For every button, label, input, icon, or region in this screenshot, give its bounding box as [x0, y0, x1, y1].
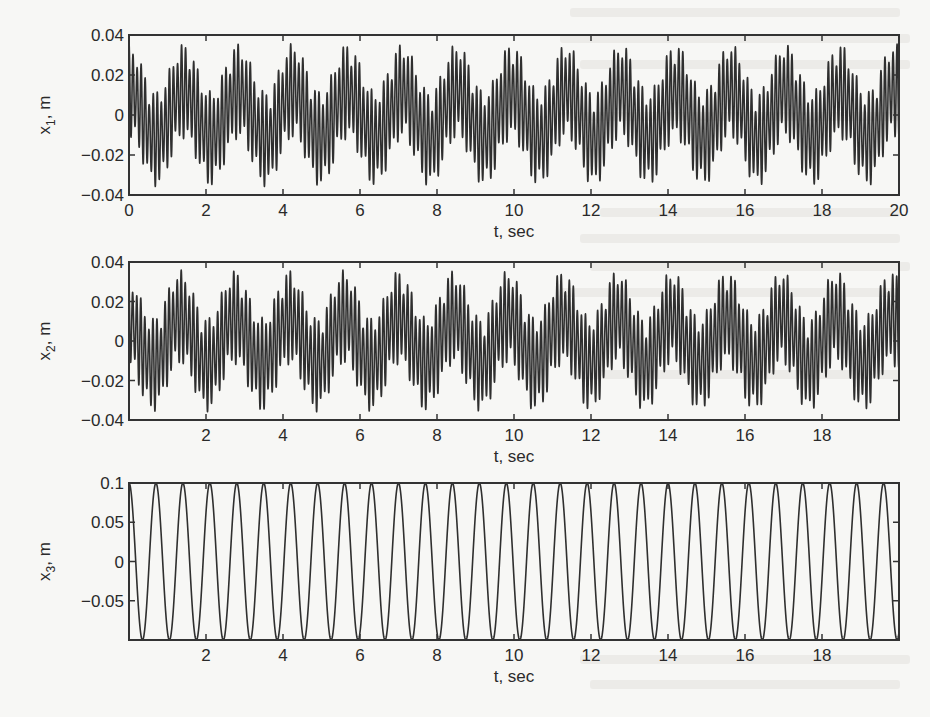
- figure-canvas: 024681012141618200.040.020−0.02−0.04 t, …: [0, 0, 930, 717]
- xtick-label: 16: [736, 646, 755, 665]
- xtick-label: 4: [278, 201, 287, 220]
- x3-axes-frame: [129, 483, 899, 640]
- xtick-label: 16: [736, 426, 755, 445]
- panel-x1: 024681012141618200.040.020−0.02−0.04 t, …: [35, 26, 908, 241]
- xtick-label: 4: [278, 426, 287, 445]
- x3-ylabel: x3, m: [35, 542, 58, 581]
- ytick-label: 0.05: [91, 513, 124, 532]
- xtick-label: 12: [582, 646, 601, 665]
- ytick-label: 0.02: [91, 293, 124, 312]
- xtick-label: 6: [355, 201, 364, 220]
- x2-trace: [129, 270, 899, 412]
- ytick-label: 0.04: [91, 253, 124, 272]
- xtick-label: 12: [582, 426, 601, 445]
- x3-ticks: 246810121416180.10.050−0.05: [81, 474, 899, 665]
- panel-x3: 246810121416180.10.050−0.05 t, sec x3, m: [35, 474, 899, 686]
- x3-trace: [129, 483, 899, 640]
- xtick-label: 10: [505, 201, 524, 220]
- ytick-label: 0.02: [91, 66, 124, 85]
- x2-ylabel: x2, m: [35, 322, 58, 361]
- xtick-label: 18: [813, 426, 832, 445]
- xtick-label: 6: [355, 426, 364, 445]
- xtick-label: 4: [278, 646, 287, 665]
- panel-x2: 246810121416180.040.020−0.02−0.04 t, sec…: [35, 253, 899, 466]
- ytick-label: −0.04: [81, 186, 124, 205]
- xtick-label: 0: [124, 201, 133, 220]
- x3-xlabel: t, sec: [494, 667, 535, 686]
- xtick-label: 14: [659, 201, 678, 220]
- xtick-label: 10: [505, 646, 524, 665]
- ytick-label: 0: [115, 332, 124, 351]
- x1-xlabel: t, sec: [494, 222, 535, 241]
- xtick-label: 8: [432, 646, 441, 665]
- xtick-label: 8: [432, 201, 441, 220]
- xtick-label: 6: [355, 646, 364, 665]
- xtick-label: 14: [659, 646, 678, 665]
- xtick-label: 10: [505, 426, 524, 445]
- xtick-label: 2: [201, 201, 210, 220]
- xtick-label: 2: [201, 426, 210, 445]
- ytick-label: 0: [115, 106, 124, 125]
- x1-trace: [129, 43, 899, 187]
- xtick-label: 20: [890, 201, 909, 220]
- ytick-label: −0.02: [81, 372, 124, 391]
- x1-ylabel: x1, m: [35, 96, 58, 135]
- xtick-label: 8: [432, 426, 441, 445]
- ytick-label: −0.05: [81, 592, 124, 611]
- xtick-label: 2: [201, 646, 210, 665]
- ytick-label: −0.04: [81, 411, 124, 430]
- ytick-label: 0: [115, 553, 124, 572]
- ytick-label: −0.02: [81, 146, 124, 165]
- ytick-label: 0.04: [91, 26, 124, 45]
- xtick-label: 12: [582, 201, 601, 220]
- xtick-label: 18: [813, 201, 832, 220]
- xtick-label: 14: [659, 426, 678, 445]
- ytick-label: 0.1: [100, 474, 124, 493]
- xtick-label: 18: [813, 646, 832, 665]
- x2-xlabel: t, sec: [494, 447, 535, 466]
- xtick-label: 16: [736, 201, 755, 220]
